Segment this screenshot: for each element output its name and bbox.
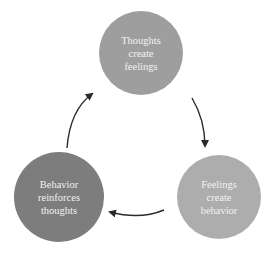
- node-feelings-line-2: create: [184, 191, 254, 204]
- node-behavior-label: Behavior reinforces thoughts: [24, 178, 94, 217]
- node-behavior-line-1: Behavior: [24, 178, 94, 191]
- cycle-diagram: Thoughts create feelings Feelings create…: [0, 0, 274, 256]
- arrow-feelings-to-behavior: [110, 210, 164, 216]
- node-thoughts: Thoughts create feelings: [99, 11, 183, 95]
- node-behavior-line-2: reinforces: [24, 191, 94, 204]
- node-feelings-label: Feelings create behavior: [184, 178, 254, 217]
- node-behavior-line-3: thoughts: [24, 204, 94, 217]
- arrow-thoughts-to-feelings: [192, 98, 205, 146]
- node-feelings-line-3: behavior: [184, 204, 254, 217]
- node-thoughts-line-2: create: [106, 47, 176, 60]
- node-feelings-line-1: Feelings: [184, 178, 254, 191]
- node-thoughts-label: Thoughts create feelings: [106, 34, 176, 73]
- node-behavior: Behavior reinforces thoughts: [14, 152, 104, 242]
- node-thoughts-line-1: Thoughts: [106, 34, 176, 47]
- node-thoughts-line-3: feelings: [106, 60, 176, 73]
- arrow-behavior-to-thoughts: [67, 94, 92, 148]
- node-feelings: Feelings create behavior: [177, 155, 261, 239]
